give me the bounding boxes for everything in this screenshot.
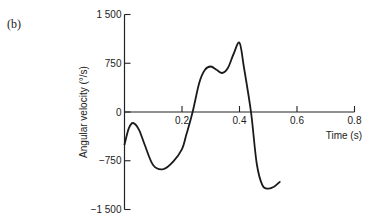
x-tick-label: 0.2 bbox=[175, 115, 189, 126]
x-axis: 0.20.40.60.8 bbox=[125, 106, 362, 126]
series-line bbox=[125, 42, 280, 188]
y-tick-label: −750 bbox=[99, 155, 122, 166]
line-chart: 1 5007500−750−1 500 0.20.40.60.8 Time (s… bbox=[0, 0, 371, 221]
y-axis-title: Angular velocity (°/s) bbox=[78, 66, 89, 158]
y-tick-label: 1 500 bbox=[96, 9, 121, 20]
x-axis-title: Time (s) bbox=[326, 130, 362, 141]
x-tick-label: 0.4 bbox=[233, 115, 247, 126]
data-series bbox=[125, 42, 280, 188]
x-tick-label: 0.6 bbox=[290, 115, 304, 126]
y-tick-label: 0 bbox=[116, 107, 122, 118]
y-tick-label: −1 500 bbox=[91, 204, 122, 215]
y-tick-label: 750 bbox=[105, 58, 122, 69]
x-tick-label: 0.8 bbox=[348, 115, 362, 126]
